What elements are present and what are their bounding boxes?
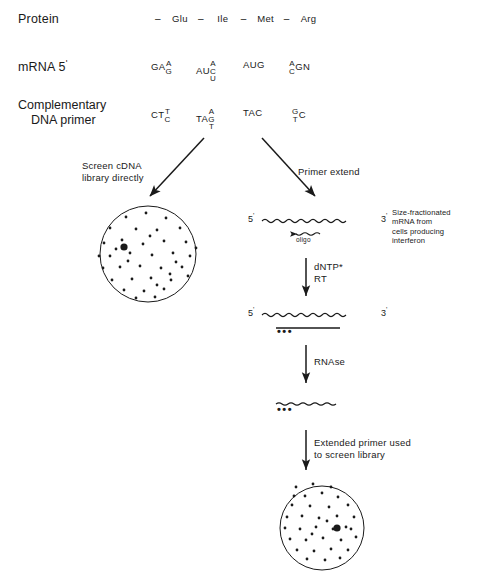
released-primer-label-dots: ••• [277,406,293,412]
mrna-row-label: mRNA 5' [18,58,68,74]
screened-library-plate [280,483,364,570]
protein-dash-0: – [150,13,167,24]
step-label-screen-library-line1: Extended primer used [314,437,411,449]
protein-residue-sequence: – Glu – Ile – Met – Arg [150,13,322,24]
extended-5-mark: ' [253,306,254,313]
plate-1-positive-clone [120,243,127,250]
primer-codon-arg-degenerate: G T [292,108,299,123]
mrna-codon-glu-degenerate: A G [166,60,173,75]
mrna-label-text: mRNA 5 [18,60,66,74]
primer-codon-met-prefix: TAC [243,108,263,118]
mrna-source-caption: Size-fractionated mRNA from cells produc… [392,208,451,245]
mrna-codon-arg-alt-down: C [289,68,295,76]
mrna-codon-glu-alt-down: G [166,68,173,76]
step-label-reverse-transcription: dNTP* RT [314,261,343,284]
protein-dash-3: – [279,13,296,24]
template-five-prime-label: 5' [248,212,254,224]
primer-label-line2: DNA primer [18,113,106,128]
mrna-codon-arg-degenerate: A C [289,60,295,75]
primer-codon-ile-prefix: TA [196,114,208,124]
extended-five-prime-label: 5' [248,306,254,318]
branch-label-screen-cdna: Screen cDNA library directly [82,160,144,183]
primer-codon-ile: TA A G T [196,108,215,131]
extended-three-prime-label: 3' [381,306,387,318]
primer-codon-arg: G T C [292,108,306,123]
protein-residue-arg: Arg [296,13,322,24]
mrna-codon-ile-prefix: AU [196,66,210,76]
step-label-rt: RT [314,273,343,285]
protein-dash-2: – [236,13,253,24]
primer-codon-ile-degenerate: A G T [208,108,215,131]
protein-residue-glu: Glu [167,13,193,24]
diagram-vector-layer [0,0,480,571]
plate-1-colonies [98,212,198,300]
plate-2-positive-clone [333,524,340,531]
template-three-prime-label: 3' [381,212,387,224]
oligo-label: oligo [296,236,311,243]
primer-codon-glu-prefix: CT [151,110,164,120]
primer-row-label: Complementary DNA primer [18,98,106,128]
mrna-source-caption-line2: mRNA from [392,217,451,226]
step-label-dntp: dNTP* [314,261,343,273]
protein-residue-ile: Ile [210,13,236,24]
cdna-library-plate [98,206,198,302]
step-label-rnase: RNAse [314,356,345,368]
mrna-codon-glu: GA A G [151,60,172,75]
primer-codon-met: TAC [243,108,263,118]
template-5-mark: ' [253,212,254,219]
extended-3-mark: ' [386,306,387,313]
plate-2-colonies [284,483,358,562]
mrna-five-prime-mark: ' [66,58,68,68]
mrna-template-strand [262,219,346,222]
extended-duplex-strand [262,313,346,328]
mrna-source-caption-line3: cells producing [392,227,451,236]
mrna-codon-arg-suffix: GN [295,62,310,72]
mrna-codon-glu-prefix: GA [151,62,166,72]
branch-label-screen-cdna-line1: Screen cDNA [82,160,144,172]
primer-codon-arg-alt-down: T [292,116,299,124]
branch-arrow-left [150,138,204,196]
template-3-mark: ' [386,212,387,219]
mrna-codon-ile: AU A C U [196,60,216,83]
primer-codon-glu: CT T C [151,108,171,123]
step-label-screen-library-line2: to screen library [314,449,411,461]
primer-codon-ile-alt-down: T [208,123,215,131]
step-label-screen-library: Extended primer used to screen library [314,437,411,460]
primer-codon-arg-suffix: C [299,110,306,120]
branch-label-screen-cdna-line2: library directly [82,172,144,184]
protein-row-label: Protein [18,12,59,26]
mrna-source-caption-line4: interferon [392,236,451,245]
extended-cdna-label-dots: ••• [277,328,293,334]
mrna-codon-ile-degenerate: A C U [210,60,216,83]
primer-label-line1: Complementary [18,98,106,113]
mrna-source-caption-line1: Size-fractionated [392,208,451,217]
primer-codon-glu-degenerate: T C [164,108,170,123]
mrna-codon-met-prefix: AUG [243,60,265,70]
figure-canvas: Protein – Glu – Ile – Met – Arg mRNA 5' … [0,0,480,571]
primer-codon-glu-alt-down: C [164,116,170,124]
protein-dash-1: – [193,13,210,24]
branch-label-primer-extend: Primer extend [298,166,360,178]
protein-residue-met: Met [253,13,279,24]
mrna-codon-met: AUG [243,60,265,70]
mrna-codon-ile-alt-down: U [210,75,216,83]
mrna-codon-arg: A C GN [289,60,310,75]
